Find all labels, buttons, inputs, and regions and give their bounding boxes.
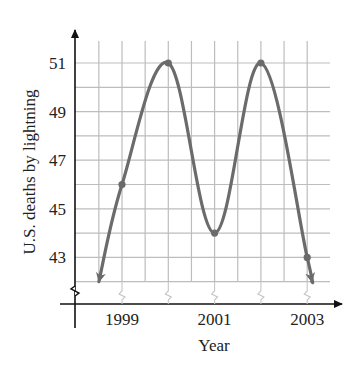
x-tick-label: 2001 [198,310,232,329]
series-line [99,62,313,282]
y-tick-label: 49 [49,103,66,122]
x-axis-label: Year [198,336,230,355]
y-tick-label: 45 [49,200,66,219]
data-point [211,230,218,237]
y-tick-label: 47 [49,151,67,170]
axes [60,30,342,328]
x-break-icon [304,282,310,304]
y-tick-label: 51 [49,54,66,73]
x-tick-label: 1999 [105,310,139,329]
tick-labels: 4345474951199920012003 [49,54,324,329]
x-break-icon [119,282,125,304]
data-curve [99,59,313,282]
y-axis-label: U.S. deaths by lightning [20,89,39,254]
lightning-deaths-chart: 4345474951199920012003 Year U.S. deaths … [0,0,363,369]
y-tick-label: 43 [49,248,66,267]
x-break-icon [165,282,171,304]
x-break-icon [258,282,264,304]
grid [75,41,330,282]
data-point [165,59,172,66]
data-point [257,59,264,66]
x-tick-label: 2003 [290,310,324,329]
data-point [118,181,125,188]
y-axis-break-icon [71,286,79,296]
x-gridline-breaks [119,282,310,304]
x-break-icon [212,282,218,304]
data-point [304,254,311,261]
